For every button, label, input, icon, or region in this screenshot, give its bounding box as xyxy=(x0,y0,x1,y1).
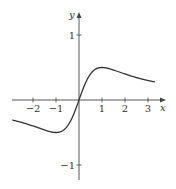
x-tick-label: −2 xyxy=(26,103,41,114)
function-graph: −2−11231−1 x y xyxy=(0,0,176,189)
x-tick-label: 3 xyxy=(145,103,151,114)
y-tick-label: −1 xyxy=(60,160,75,171)
x-tick-label: 1 xyxy=(99,103,105,114)
x-tick-label: −1 xyxy=(49,103,64,114)
y-tick-label: 1 xyxy=(69,30,75,41)
x-axis-label: x xyxy=(160,102,166,113)
x-tick-label: 2 xyxy=(122,103,128,114)
x-axis xyxy=(12,98,166,103)
y-axis-label: y xyxy=(68,9,75,20)
